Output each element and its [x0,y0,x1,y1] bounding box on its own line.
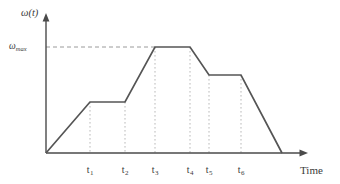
angular-velocity-profile-figure: ω(t) ωmax Time t1 t2 t3 t4 t5 t6 [0,0,340,184]
tick-label-t3: t3 [152,164,159,175]
tick-label-t2: t2 [122,164,129,175]
x-axis-label: Time [300,164,323,176]
omega-max-label-base: ω [9,41,16,51]
tick-label-t6: t6 [238,164,245,175]
tick-label-t5: t5 [206,164,213,175]
omega-max-label: ωmax [9,41,27,51]
y-axis-label: ω(t) [21,7,38,18]
tick-label-t1: t1 [87,164,94,175]
y-axis-arrow-icon [43,13,50,22]
tick-label-t4: t4 [187,164,194,175]
x-axis-arrow-icon [300,150,309,157]
omega-profile-curve [46,47,282,153]
omega-max-label-subscript: max [16,45,27,52]
motion-profile-chart [0,0,340,184]
